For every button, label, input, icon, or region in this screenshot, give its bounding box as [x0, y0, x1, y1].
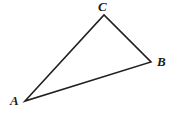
- vertex-label-b: B: [157, 55, 166, 68]
- triangle-diagram: C B A: [0, 0, 174, 117]
- vertex-label-a: A: [10, 94, 19, 107]
- vertex-label-c: C: [98, 0, 107, 13]
- triangle-outline: [25, 15, 151, 101]
- triangle-shape: [0, 0, 174, 117]
